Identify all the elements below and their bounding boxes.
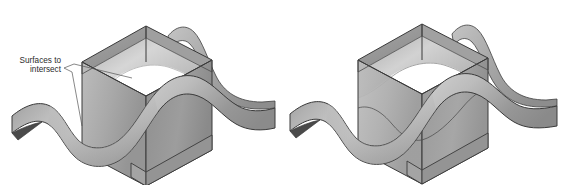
diagram-canvas: Surfaces to intersect <box>0 0 563 185</box>
right-panel <box>290 24 557 184</box>
callout-label-line-2: intersect <box>30 65 62 74</box>
figure-root: Surfaces to intersect <box>0 0 563 185</box>
leader-line-to-surface <box>64 68 82 126</box>
callout-label-line-1: Surfaces to <box>20 56 62 65</box>
left-panel: Surfaces to intersect <box>12 26 275 185</box>
